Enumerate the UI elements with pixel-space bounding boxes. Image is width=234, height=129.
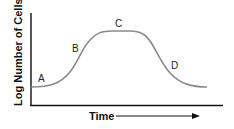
y-axis-label: Log Number of Cells	[12, 0, 24, 106]
phase-label-c: C	[115, 18, 122, 29]
phase-label-b: B	[72, 43, 79, 54]
phase-label-d: D	[171, 60, 178, 71]
phase-label-a: A	[38, 73, 45, 84]
time-arrow-icon	[192, 113, 200, 119]
growth-curve-line	[31, 31, 207, 87]
x-axis-label: Time	[89, 110, 114, 122]
growth-curve-chart: A B C D Log Number of Cells Time	[0, 0, 234, 129]
